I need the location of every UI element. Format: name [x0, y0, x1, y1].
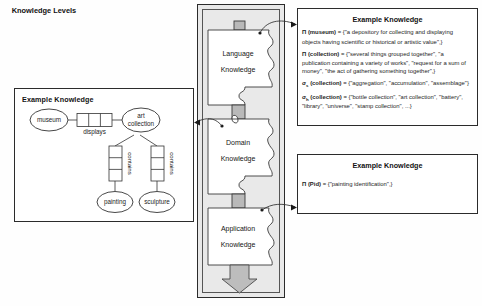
entry-term: (museum) — [308, 29, 336, 35]
er-relationship-contains-left: contains — [109, 146, 133, 181]
entry-prefix: Π — [302, 181, 306, 187]
entry-subscript: h — [306, 97, 309, 102]
er-label-displays: displays — [83, 128, 106, 136]
er-link-collection-contains-left — [115, 135, 134, 146]
knowledge-entry: σs (collection) = {"aggregation", "accum… — [302, 80, 473, 90]
er-link-collection-contains-right — [140, 135, 157, 146]
er-entity-art-collection: art collection — [122, 108, 160, 132]
figure-canvas: Example Knowledge displays contains — [0, 0, 482, 306]
knowledge-levels-title: Knowledge Levels — [0, 6, 88, 15]
entry-term: (Pid) — [308, 181, 321, 187]
knowledge-entry: Π (Pid) = {"painting identification",} — [302, 181, 473, 191]
entry-text: = {"painting identification",} — [321, 181, 393, 187]
er-entity-museum: museum — [30, 109, 68, 131]
puzzle-piece-language: Language Knowledge — [208, 30, 274, 105]
er-label-painting: painting — [104, 198, 127, 206]
puzzle-piece-application: Application Knowledge — [208, 208, 274, 265]
entry-term: (collection) — [308, 51, 339, 57]
down-arrow-icon — [222, 265, 257, 293]
er-label-sculpture: sculpture — [144, 198, 170, 206]
er-relationship-displays: displays — [77, 114, 112, 137]
puzzle-tab-domain-application — [232, 194, 245, 208]
puzzle-label-domain-2: Knowledge — [221, 155, 256, 163]
entry-term: (collection) — [310, 80, 341, 86]
entry-prefix: Π — [302, 51, 306, 57]
er-entity-sculpture: sculpture — [139, 192, 175, 213]
entry-text: = {"aggregation", "accumulation", "assem… — [342, 80, 469, 86]
puzzle-piece-domain: Domain Knowledge — [208, 115, 274, 194]
scan-artifact — [34, 274, 36, 282]
bottom-right-example-knowledge-panel: Example Knowledge Π (Pid) = {"painting i… — [297, 154, 478, 214]
left-example-knowledge-panel: Example Knowledge displays contains — [14, 88, 194, 222]
er-label-contains-left: contains — [127, 152, 133, 174]
top-right-example-knowledge-panel: Example Knowledge Π (museum) = {"a depos… — [297, 8, 478, 126]
puzzle-label-domain-1: Domain — [226, 139, 250, 146]
er-diagram: displays contains contains museum — [15, 89, 195, 223]
er-relationship-contains-right: contains — [151, 146, 175, 181]
puzzle-label-language-2: Knowledge — [221, 66, 256, 74]
er-label-art: art — [137, 112, 145, 119]
knowledge-entry: σh (collection) = {"bottle collection", … — [302, 94, 473, 111]
puzzle-label-application-1: Application — [221, 225, 255, 233]
er-entity-painting: painting — [97, 192, 133, 213]
knowledge-entry: Π (collection) = {"several things groupe… — [302, 51, 473, 76]
puzzle-stack: Language Knowledge Domain Knowledge Appl… — [197, 4, 285, 298]
knowledge-entry: Π (museum) = {"a depository for collecti… — [302, 29, 473, 46]
scan-artifact — [28, 262, 30, 270]
top-right-panel-title: Example Knowledge — [298, 15, 477, 24]
er-label-museum: museum — [37, 116, 61, 123]
bottom-right-panel-title: Example Knowledge — [298, 161, 477, 170]
puzzle-top-tab — [234, 21, 245, 30]
entry-term: (collection) — [310, 94, 341, 100]
puzzle-label-application-2: Knowledge — [221, 241, 256, 249]
puzzle-label-language-1: Language — [222, 50, 253, 58]
entry-prefix: Π — [302, 29, 306, 35]
er-label-contains-right: contains — [169, 152, 175, 174]
er-label-collection: collection — [128, 120, 155, 127]
bottom-right-entries: Π (Pid) = {"painting identification",} — [302, 175, 473, 195]
top-right-entries: Π (museum) = {"a depository for collecti… — [302, 29, 473, 115]
entry-subscript: s — [306, 83, 308, 88]
